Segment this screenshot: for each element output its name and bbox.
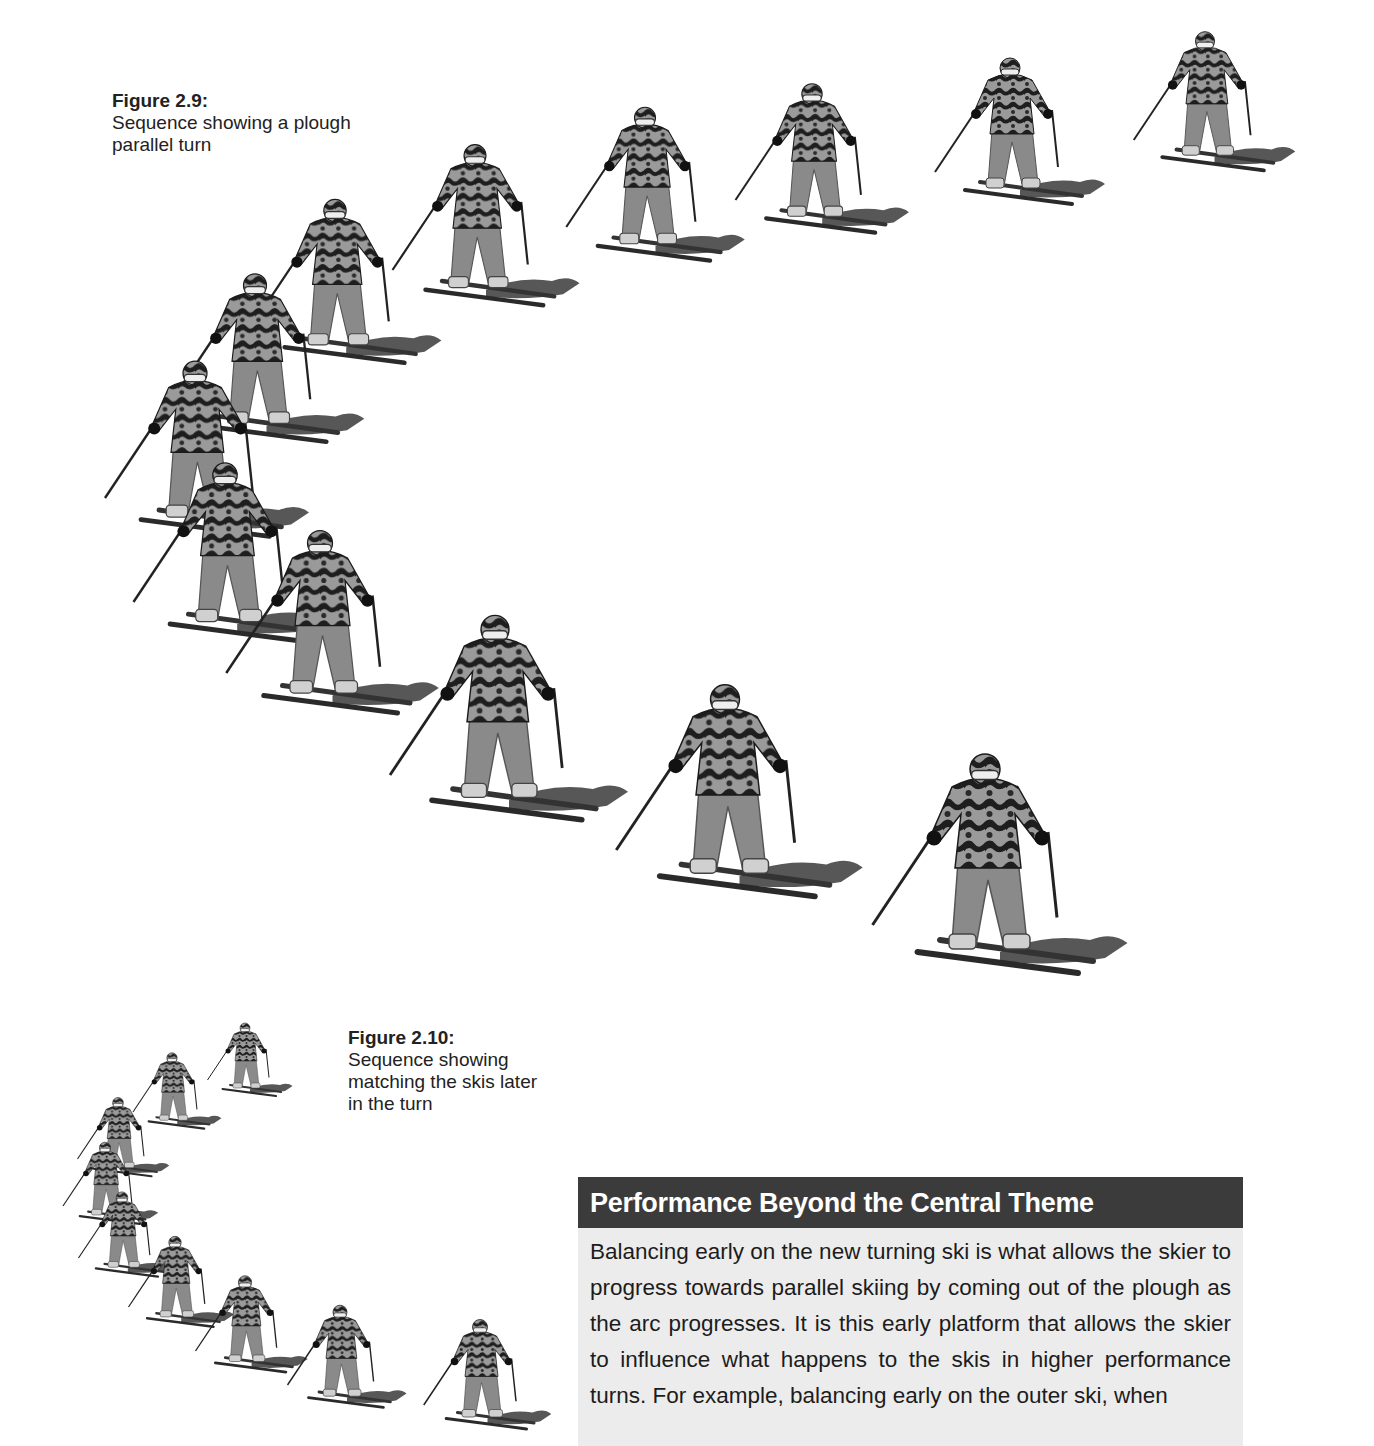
figure-2-9-description: Sequence showing a plough parallel turn bbox=[112, 112, 402, 156]
sidebar-box-heading: Performance Beyond the Central Theme bbox=[578, 1177, 1243, 1228]
sidebar-box: Performance Beyond the Central Theme Bal… bbox=[578, 1177, 1243, 1446]
figure-2-9-title: Figure 2.9: bbox=[112, 90, 402, 112]
figure-2-9-caption: Figure 2.9: Sequence showing a plough pa… bbox=[112, 90, 402, 156]
figure-2-10-description: Sequence showing matching the skis later… bbox=[348, 1049, 548, 1115]
figure-2-10-title: Figure 2.10: bbox=[348, 1027, 548, 1049]
figure-2-10-caption: Figure 2.10: Sequence showing matching t… bbox=[348, 1027, 548, 1115]
sidebar-box-body: Balancing early on the new turning ski i… bbox=[578, 1228, 1243, 1414]
figure-2-9-frames bbox=[105, 32, 1295, 973]
